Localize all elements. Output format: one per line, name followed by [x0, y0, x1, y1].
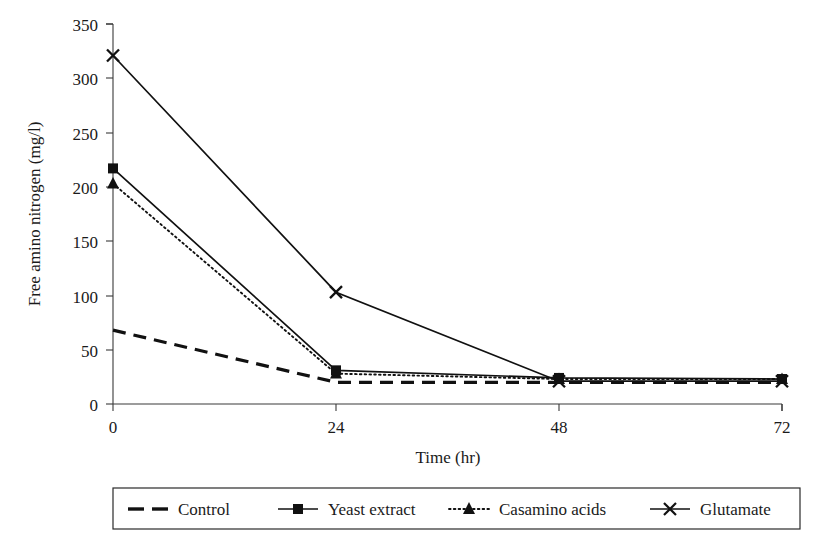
y-tick-label-100: 100: [73, 288, 99, 307]
x-tick-labels: 0 24 48 72: [109, 418, 791, 437]
y-tick-label-0: 0: [90, 396, 99, 415]
series-group: [107, 49, 788, 387]
y-tick-marks: [106, 24, 113, 404]
x-tick-label-72: 72: [774, 418, 791, 437]
x-tick-label-48: 48: [551, 418, 568, 437]
x-tick-marks: [113, 404, 782, 411]
y-tick-label-250: 250: [73, 125, 99, 144]
y-tick-label-50: 50: [81, 342, 98, 361]
series-line-casamino-acids: [113, 184, 782, 379]
line-chart: 350 300 250 200 150 100 50 0 0 24 48 72 …: [0, 0, 840, 547]
legend-label-casamino-acids: Casamino acids: [499, 500, 606, 519]
data-point-marker: [108, 163, 118, 173]
y-tick-labels: 350 300 250 200 150 100 50 0: [73, 16, 99, 415]
x-tick-label-24: 24: [328, 418, 346, 437]
chart-legend: Control Yeast extract Casamino acids: [113, 488, 800, 529]
legend-label-glutamate: Glutamate: [700, 500, 771, 519]
y-tick-label-200: 200: [73, 179, 99, 198]
x-axis-title: Time (hr): [415, 448, 480, 467]
y-tick-label-150: 150: [73, 233, 99, 252]
series-line-glutamate: [113, 55, 782, 381]
data-point-marker: [107, 177, 119, 189]
axis-group: [106, 24, 782, 411]
y-tick-label-350: 350: [73, 16, 99, 35]
figure-container: 350 300 250 200 150 100 50 0 0 24 48 72 …: [0, 0, 840, 547]
series-markers-yeast-extract: [108, 163, 787, 384]
legend-label-control: Control: [178, 500, 230, 519]
y-tick-label-300: 300: [73, 70, 99, 89]
y-axis-title: Free amino nitrogen (mg/l): [25, 122, 44, 307]
x-tick-label-0: 0: [109, 418, 118, 437]
data-point-marker: [331, 365, 341, 375]
series-markers-casamino-acids: [107, 177, 788, 384]
legend-label-yeast-extract: Yeast extract: [328, 500, 416, 519]
series-line-yeast-extract: [113, 168, 782, 379]
